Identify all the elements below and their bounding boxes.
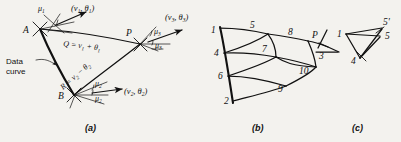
data-curve-leader-arrow (36, 59, 56, 65)
node-label-b-10: 10 (299, 66, 309, 76)
caption-panel-c: (c) (352, 123, 363, 133)
node-label-b-7: 7 (262, 44, 268, 54)
panel-a: μ1 A (ν1, θ1) Q = ν1 + θ1 R = ν2 − θ2 Da… (6, 3, 188, 133)
velocity-vector-1 (56, 12, 86, 25)
velocity-vector-2 (92, 89, 122, 93)
panel-c: 1 5' 5 4 (c) (337, 17, 391, 133)
label-velocity-vector-2: (ν2, θ2) (124, 86, 147, 97)
node-label-c-5prime: 5' (383, 17, 391, 27)
label-data-curve-line2: curve (6, 67, 26, 76)
char-c-4-5 (360, 37, 380, 58)
node-label-b-2: 2 (224, 96, 229, 106)
node-label-b-1: 1 (211, 25, 216, 35)
label-mu2-lower: μ2 (94, 94, 102, 104)
mach-line-B-1 (75, 82, 107, 95)
node-label-b-6: 6 (218, 71, 223, 81)
label-velocity-vector-3: (ν3, θ3) (165, 12, 188, 23)
node-label-b-9: 9 (278, 84, 283, 94)
char-c-1-4 (346, 34, 360, 58)
node-label-b-P: P (311, 30, 318, 40)
label-mu1: μ1 (37, 4, 45, 14)
label-mu3-lower: μ3 (154, 41, 162, 51)
mu3-lower-arc (152, 41, 153, 45)
label-point-P: P (125, 28, 132, 38)
panel-b: 1 5 8 P 4 7 3 6 10 9 2 (b) (211, 20, 339, 133)
method-of-characteristics-figure: μ1 A (ν1, θ1) Q = ν1 + θ1 R = ν2 − θ2 Da… (0, 0, 401, 142)
node-label-b-5: 5 (250, 20, 255, 30)
node-label-b-3: 3 (318, 51, 324, 61)
equation-Q: Q = ν1 + θ1 (63, 39, 102, 54)
node-label-c-5: 5 (385, 31, 390, 41)
mach-line-A-4 (48, 14, 60, 32)
label-velocity-vector-1: (ν1, θ1) (71, 3, 94, 14)
char-b-4-7 (224, 53, 276, 57)
caption-panel-a: (a) (85, 123, 96, 133)
node-label-c-4: 4 (351, 56, 356, 66)
char-b-1-5 (220, 28, 268, 34)
figure-container: μ1 A (ν1, θ1) Q = ν1 + θ1 R = ν2 − θ2 Da… (0, 0, 401, 142)
caption-panel-b: (b) (252, 123, 264, 133)
label-mu2-upper: μ2 (94, 79, 102, 89)
label-point-B: B (58, 91, 64, 101)
char-c-1-5 (346, 34, 380, 36)
char-b-5-7 (268, 34, 276, 57)
node-label-c-1: 1 (337, 29, 342, 39)
node-label-b-8: 8 (288, 27, 293, 37)
label-data-curve-line1: Data (6, 57, 23, 66)
equation-Q-group: Q = ν1 + θ1 (63, 39, 102, 54)
data-curve-b (220, 27, 233, 103)
label-mu3-upper: μ3 (153, 27, 161, 37)
char-b-6-7 (228, 57, 276, 76)
label-point-A: A (22, 25, 29, 35)
char-b-8-10 (308, 41, 316, 67)
node-label-b-4: 4 (214, 48, 219, 58)
